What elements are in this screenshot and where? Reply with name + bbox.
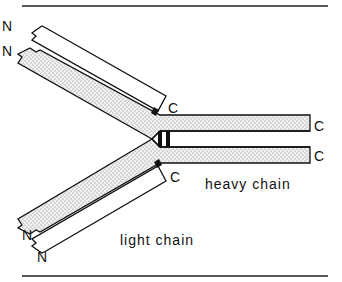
label-n-lower-heavy: N — [22, 227, 32, 243]
label-n-upper-heavy: N — [2, 43, 12, 59]
label-light-chain: light chain — [120, 232, 194, 248]
label-n-lower-light: N — [37, 249, 47, 265]
disulfide-bond-heavy-1 — [158, 131, 162, 147]
antibody-diagram: N N C C C C heavy chain light chain N N — [0, 0, 342, 282]
label-c-lower-light: C — [170, 169, 180, 185]
disulfide-bond-heavy-2 — [166, 131, 170, 147]
label-n-upper-light: N — [2, 18, 12, 34]
label-c-upper-light: C — [168, 100, 178, 116]
heavy-chain-upper — [18, 48, 310, 139]
label-c-heavy-upper: C — [314, 118, 324, 134]
label-c-heavy-lower: C — [314, 148, 324, 164]
label-heavy-chain: heavy chain — [205, 176, 291, 192]
